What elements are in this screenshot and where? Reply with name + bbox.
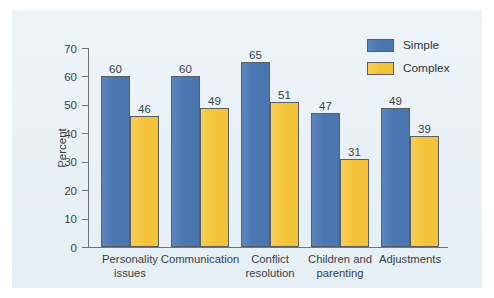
category-label: Adjustments [365, 253, 455, 267]
chart-legend: SimpleComplex [367, 38, 450, 84]
y-axis-tick-label: 40 [64, 128, 77, 140]
y-axis-tick-label: 30 [64, 156, 77, 168]
y-axis-tick-label: 0 [71, 242, 77, 254]
bar-group: 6551 [241, 48, 299, 247]
bar-simple[interactable]: 47 [311, 113, 340, 247]
bar-simple[interactable]: 49 [381, 108, 410, 247]
bar-group: 4731 [311, 48, 369, 247]
y-axis-title-container: Percent [36, 118, 50, 178]
legend-label: Simple [403, 38, 439, 52]
bar-group: 6049 [171, 48, 229, 247]
bar-complex[interactable]: 46 [130, 116, 159, 247]
bar-complex[interactable]: 39 [410, 136, 439, 247]
bar-complex[interactable]: 49 [200, 108, 229, 247]
bar-value-label: 31 [348, 146, 361, 158]
y-axis-tick: 0 [82, 247, 88, 248]
legend-swatch-simple [367, 39, 394, 52]
bar-value-label: 49 [208, 95, 221, 107]
legend-item[interactable]: Simple [367, 38, 450, 52]
bar-value-label: 39 [418, 123, 431, 135]
bar-value-label: 46 [138, 103, 151, 115]
legend-item[interactable]: Complex [367, 61, 450, 75]
bar-value-label: 60 [179, 63, 192, 75]
y-axis-tick-label: 20 [64, 185, 77, 197]
bar-value-label: 47 [319, 100, 332, 112]
bar-group: 6046 [101, 48, 159, 247]
bar-value-label: 49 [389, 95, 402, 107]
bar-value-label: 60 [109, 63, 122, 75]
x-axis-line [88, 247, 448, 248]
bar-value-label: 65 [249, 49, 262, 61]
bar-simple[interactable]: 60 [171, 76, 200, 247]
bar-value-label: 51 [278, 89, 291, 101]
y-axis-tick-label: 60 [64, 71, 77, 83]
chart-figure: Percent 010203040506070 6046604965514731… [0, 0, 494, 298]
chart-panel: Percent 010203040506070 6046604965514731… [12, 10, 482, 288]
bar-complex[interactable]: 31 [340, 159, 369, 247]
y-axis-tick-label: 10 [64, 213, 77, 225]
legend-label: Complex [403, 61, 450, 75]
bar-complex[interactable]: 51 [270, 102, 299, 247]
y-axis-tick-label: 70 [64, 43, 77, 55]
bar-simple[interactable]: 65 [241, 62, 270, 247]
y-axis-tick-label: 50 [64, 99, 77, 111]
legend-swatch-complex [367, 62, 394, 75]
y-axis-tick-mark [82, 247, 88, 248]
bar-simple[interactable]: 60 [101, 76, 130, 247]
